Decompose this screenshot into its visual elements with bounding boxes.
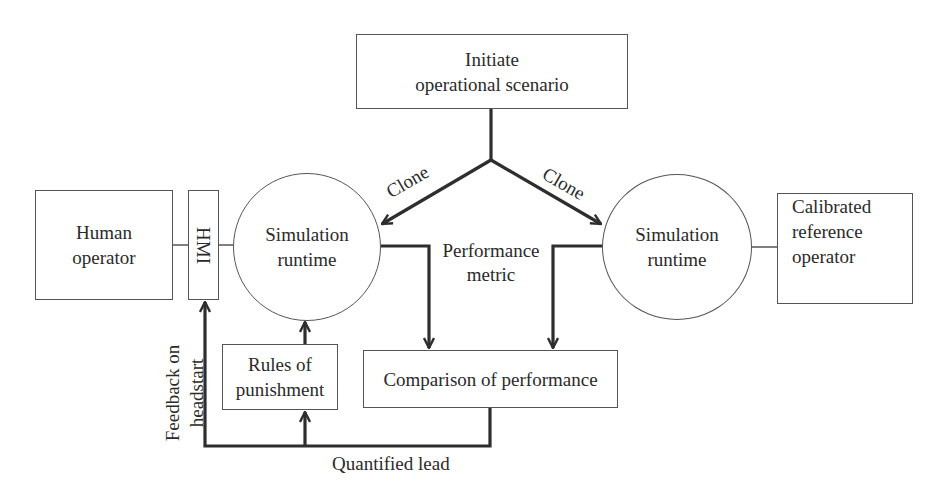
rules-of-punishment-box: Rules of punishment [222, 344, 338, 410]
human-operator-box: Human operator [35, 190, 173, 300]
simulation-runtime-right: Simulation runtime [602, 174, 752, 320]
rules-line1: Rules of [248, 352, 312, 377]
feedback-on-headstart-label: Feedback on headstart [161, 313, 209, 473]
sim-right-line1: Simulation [635, 222, 718, 247]
arrow-metric-right [553, 246, 603, 348]
human-operator-line2: operator [72, 245, 135, 270]
hmi-label: HMI [191, 227, 216, 264]
human-operator-line1: Human [76, 220, 132, 245]
initiate-scenario-box: Initiate operational scenario [356, 34, 628, 109]
sim-left-line1: Simulation [265, 222, 348, 247]
calibrated-line3: operator [792, 244, 855, 269]
calibrated-line2: reference [792, 219, 863, 244]
calibrated-reference-operator-box: Calibrated reference operator [777, 193, 913, 304]
rules-line2: punishment [236, 377, 325, 402]
sim-left-line2: runtime [277, 247, 336, 272]
performance-metric-label: Performance metric [432, 239, 550, 287]
feedback-line1: Feedback on [161, 313, 185, 473]
sim-right-line2: runtime [647, 247, 706, 272]
performance-metric-line2: metric [432, 263, 550, 287]
initiate-line2: operational scenario [415, 72, 569, 97]
quantified-lead-label: Quantified lead [332, 452, 450, 476]
initiate-line1: Initiate [465, 47, 519, 72]
hmi-box: HMI [188, 190, 219, 300]
comparison-of-performance-box: Comparison of performance [363, 350, 618, 408]
comparison-label: Comparison of performance [383, 367, 597, 392]
arrow-metric-left [381, 246, 429, 348]
performance-metric-line1: Performance [432, 239, 550, 263]
calibrated-line1: Calibrated [792, 194, 871, 219]
simulation-runtime-left: Simulation runtime [233, 173, 381, 321]
feedback-line2: headstart [185, 313, 209, 473]
